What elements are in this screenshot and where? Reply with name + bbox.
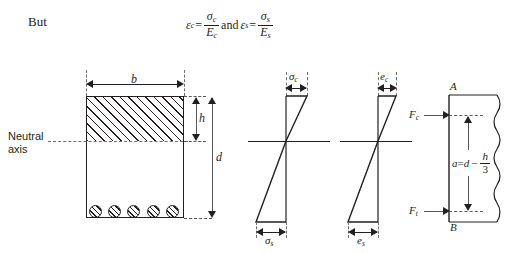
lever-arm-arrow-up xyxy=(464,116,472,123)
modulus-c-subscript: c xyxy=(213,31,217,40)
neutral-axis-label-line2: axis xyxy=(8,143,43,156)
rebar-circle xyxy=(147,205,160,218)
width-arrow-right xyxy=(177,80,184,88)
d-arrow-up xyxy=(208,97,216,104)
neutral-axis-label: Neutral axis xyxy=(8,130,43,157)
rebar-circle xyxy=(108,205,121,218)
strain-s-sub-label: s xyxy=(362,239,365,248)
stress-neutral-axis-line xyxy=(248,141,330,142)
rebar-group xyxy=(89,205,181,219)
width-arrow-left xyxy=(86,80,93,88)
rebar-circle xyxy=(127,205,140,218)
stress-c-label: σc xyxy=(289,70,298,84)
strain-c-sub-label: c xyxy=(385,75,388,84)
strain-stress-equation: εc = σc Ec and εs = σs Es xyxy=(186,10,274,41)
stress-profile xyxy=(250,92,314,226)
stress-c-sub-label: c xyxy=(294,75,297,84)
h-arrow-up xyxy=(192,97,200,104)
equals-sign-2: = xyxy=(249,18,256,33)
force-compression-symbol: F xyxy=(409,108,416,120)
lever-arm-equation: a = d − h 3 xyxy=(452,150,491,176)
lever-arm-numerator: h xyxy=(480,151,490,163)
lever-arm-d-symbol: d xyxy=(464,157,470,169)
lever-arm-minus: − xyxy=(471,157,477,169)
equals-sign-1: = xyxy=(195,18,202,33)
point-a-label: A xyxy=(450,80,457,92)
modulus-s-subscript: s xyxy=(267,31,270,40)
stress-c-arrow-right xyxy=(300,84,307,92)
rebar-circle xyxy=(166,205,179,218)
but-label: But xyxy=(28,14,47,30)
figure-canvas: But εc = σc Ec and εs = σs Es b Neutral … xyxy=(0,0,518,253)
strain-s-arrow-left xyxy=(348,228,355,236)
strain-s-arrow-right xyxy=(371,228,378,236)
force-tension-symbol: F xyxy=(409,204,416,216)
stress-s-label: σs xyxy=(265,234,273,248)
neutral-axis-label-line1: Neutral xyxy=(8,130,43,143)
stress-over-modulus-concrete: σc Ec xyxy=(204,10,219,41)
stress-s-subscript: s xyxy=(267,15,270,24)
stress-c-subscript: c xyxy=(213,15,217,24)
stress-c-arrow-left xyxy=(285,84,292,92)
h-dimension-line xyxy=(196,98,197,139)
stress-over-modulus-steel: σs Es xyxy=(258,10,273,41)
force-compression-line xyxy=(424,115,445,116)
stress-s-extension-right xyxy=(286,222,287,238)
strain-c-arrow-left xyxy=(377,84,384,92)
d-arrow-down xyxy=(208,211,216,218)
d-dimension-line xyxy=(212,98,213,216)
strain-s-extension-right xyxy=(378,222,379,238)
h-label: h xyxy=(199,111,205,126)
stress-s-sub-label: s xyxy=(270,239,273,248)
force-tension-line xyxy=(424,211,445,212)
force-compression-label: Fc xyxy=(409,108,419,122)
point-b-label: B xyxy=(450,221,457,233)
lever-arm-denominator: 3 xyxy=(480,163,490,176)
strain-s-label: es xyxy=(357,234,365,248)
force-compression-subscript: c xyxy=(416,113,419,122)
stress-s-arrow-right xyxy=(279,228,286,236)
strain-neutral-axis-line xyxy=(340,141,412,142)
lever-arm-fraction: h 3 xyxy=(480,151,490,175)
strain-c-subscript: c xyxy=(191,21,195,30)
compression-zone-hatch xyxy=(87,97,183,141)
force-tension-subscript: t xyxy=(416,209,418,218)
width-label-b: b xyxy=(131,72,137,87)
stress-s-arrow-left xyxy=(256,228,263,236)
neutral-axis-line xyxy=(48,141,188,142)
strain-profile xyxy=(344,92,402,226)
lever-arm-arrow-down xyxy=(464,204,472,211)
extension-line-right xyxy=(184,70,185,96)
force-tension-label: Ft xyxy=(409,204,418,218)
d-label: d xyxy=(216,150,222,165)
lever-arm-guide-bottom xyxy=(449,211,483,212)
d-extension-bottom xyxy=(184,218,212,219)
h-arrow-down xyxy=(192,134,200,141)
and-conjunction: and xyxy=(221,18,238,33)
rebar-circle xyxy=(89,205,102,218)
strain-c-arrow-right xyxy=(390,84,397,92)
strain-s-subscript: s xyxy=(245,21,248,30)
h-extension-bottom xyxy=(184,141,206,142)
strain-c-label: ec xyxy=(380,70,388,84)
